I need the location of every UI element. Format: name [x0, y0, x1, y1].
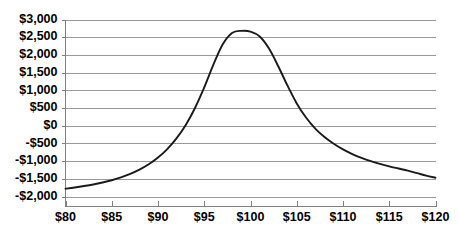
y-axis-tick-label: $2,000	[19, 47, 57, 61]
x-axis-tick-label: $85	[101, 210, 122, 224]
gridlines	[66, 21, 436, 198]
y-axis-tick-label: -$2,000	[15, 189, 57, 203]
y-axis-tick-label: $0	[44, 118, 58, 132]
data-series-group	[66, 31, 436, 189]
y-axis-tick-label: -$1,000	[15, 153, 57, 167]
y-axis-tick-label: $2,500	[19, 29, 57, 43]
x-axis-tick-label: $105	[283, 210, 311, 224]
x-axis-tick-label: $90	[148, 210, 169, 224]
line-chart: $3,000$2,500$2,000$1,500$1,000$500$0-$50…	[0, 0, 459, 231]
x-axis-tick-label: $100	[237, 210, 265, 224]
x-axis-tick-label: $120	[422, 210, 450, 224]
x-axis-tick-label: $115	[376, 210, 403, 224]
chart-container: $3,000$2,500$2,000$1,500$1,000$500$0-$50…	[0, 0, 459, 231]
y-axis-tick-label: -$1,500	[15, 171, 57, 185]
y-axis-tick-label: $3,000	[19, 12, 57, 26]
x-axis-tick-label: $95	[194, 210, 215, 224]
x-axis-tick-label: $80	[55, 210, 76, 224]
series-line-profit	[66, 31, 436, 189]
y-axis-tick-labels: $3,000$2,500$2,000$1,500$1,000$500$0-$50…	[15, 12, 57, 203]
y-axis-tick-label: $1,500	[19, 65, 57, 79]
x-axis-tick-label: $110	[329, 210, 356, 224]
y-axis-tick-label: $1,000	[19, 83, 57, 97]
y-axis-tick-label: $500	[30, 100, 58, 114]
x-axis-tick-labels: $80$85$90$95$100$105$110$115$120	[55, 210, 449, 224]
y-axis-tick-label: -$500	[26, 136, 58, 150]
